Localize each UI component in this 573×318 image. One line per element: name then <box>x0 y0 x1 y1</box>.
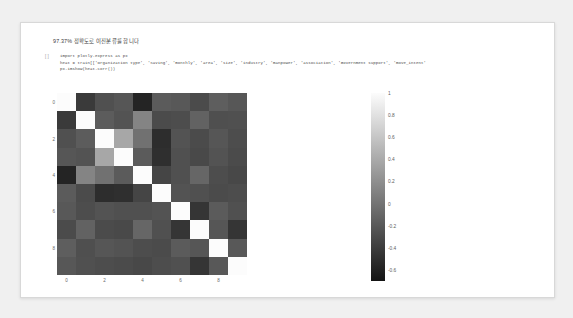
heatmap-cell[interactable] <box>133 220 152 238</box>
heatmap-cell[interactable] <box>171 93 190 111</box>
heatmap-cell[interactable] <box>95 202 114 220</box>
heatmap-cell[interactable] <box>57 129 76 147</box>
heatmap-cell[interactable] <box>209 129 228 147</box>
heatmap-cell[interactable] <box>76 129 95 147</box>
heatmap-cell[interactable] <box>152 129 171 147</box>
heatmap-cell[interactable] <box>152 239 171 257</box>
heatmap-cell[interactable] <box>95 111 114 129</box>
heatmap-cell[interactable] <box>171 202 190 220</box>
heatmap-cell[interactable] <box>76 239 95 257</box>
heatmap-cell[interactable] <box>76 166 95 184</box>
heatmap-cell[interactable] <box>57 239 76 257</box>
heatmap-cell[interactable] <box>76 184 95 202</box>
heatmap-cell[interactable] <box>171 111 190 129</box>
heatmap-cell[interactable] <box>228 148 247 166</box>
heatmap-cell[interactable] <box>57 148 76 166</box>
heatmap-cell[interactable] <box>95 184 114 202</box>
heatmap-cell[interactable] <box>57 220 76 238</box>
heatmap-cell[interactable] <box>152 202 171 220</box>
heatmap-cell[interactable] <box>114 257 133 275</box>
heatmap-cell[interactable] <box>228 257 247 275</box>
heatmap-cell[interactable] <box>76 111 95 129</box>
heatmap-cell[interactable] <box>190 166 209 184</box>
heatmap-cell[interactable] <box>57 93 76 111</box>
heatmap-cell[interactable] <box>76 148 95 166</box>
heatmap-cell[interactable] <box>152 148 171 166</box>
heatmap-cell[interactable] <box>133 111 152 129</box>
heatmap-cell[interactable] <box>114 111 133 129</box>
heatmap-cell[interactable] <box>228 202 247 220</box>
heatmap-cell[interactable] <box>209 239 228 257</box>
heatmap-cell[interactable] <box>95 129 114 147</box>
heatmap-cell[interactable] <box>133 239 152 257</box>
heatmap-cell[interactable] <box>133 257 152 275</box>
heatmap-cell[interactable] <box>133 129 152 147</box>
heatmap-cell[interactable] <box>209 93 228 111</box>
heatmap-cell[interactable] <box>152 111 171 129</box>
heatmap-cell[interactable] <box>114 148 133 166</box>
heatmap-cell[interactable] <box>95 148 114 166</box>
heatmap-cell[interactable] <box>228 239 247 257</box>
heatmap-cell[interactable] <box>114 184 133 202</box>
heatmap-cell[interactable] <box>228 220 247 238</box>
heatmap-cell[interactable] <box>190 257 209 275</box>
heatmap-cell[interactable] <box>190 111 209 129</box>
heatmap-cell[interactable] <box>228 111 247 129</box>
heatmap-cell[interactable] <box>114 129 133 147</box>
heatmap-cell[interactable] <box>190 148 209 166</box>
heatmap-cell[interactable] <box>209 202 228 220</box>
heatmap-cell[interactable] <box>114 202 133 220</box>
heatmap-cell[interactable] <box>133 184 152 202</box>
heatmap-cell[interactable] <box>152 184 171 202</box>
heatmap-cell[interactable] <box>171 239 190 257</box>
heatmap-cell[interactable] <box>171 184 190 202</box>
code-editor[interactable]: import plotly.express as px heat = train… <box>60 53 520 73</box>
heatmap-cell[interactable] <box>57 202 76 220</box>
heatmap-cell[interactable] <box>190 184 209 202</box>
heatmap-cell[interactable] <box>76 257 95 275</box>
heatmap-cell[interactable] <box>209 111 228 129</box>
heatmap-cell[interactable] <box>152 220 171 238</box>
heatmap-grid[interactable] <box>57 93 247 275</box>
heatmap-cell[interactable] <box>133 93 152 111</box>
heatmap-cell[interactable] <box>152 166 171 184</box>
heatmap-cell[interactable] <box>228 184 247 202</box>
heatmap-cell[interactable] <box>76 202 95 220</box>
heatmap-cell[interactable] <box>190 93 209 111</box>
heatmap-cell[interactable] <box>209 166 228 184</box>
heatmap-cell[interactable] <box>228 93 247 111</box>
heatmap-cell[interactable] <box>209 184 228 202</box>
heatmap-cell[interactable] <box>171 220 190 238</box>
heatmap-cell[interactable] <box>171 257 190 275</box>
heatmap-cell[interactable] <box>171 166 190 184</box>
heatmap-cell[interactable] <box>133 148 152 166</box>
heatmap-cell[interactable] <box>95 257 114 275</box>
heatmap-cell[interactable] <box>57 184 76 202</box>
heatmap-cell[interactable] <box>133 202 152 220</box>
heatmap-cell[interactable] <box>133 166 152 184</box>
heatmap-cell[interactable] <box>95 220 114 238</box>
heatmap-cell[interactable] <box>171 148 190 166</box>
heatmap-cell[interactable] <box>114 93 133 111</box>
heatmap-cell[interactable] <box>171 129 190 147</box>
heatmap-cell[interactable] <box>57 257 76 275</box>
heatmap-cell[interactable] <box>190 202 209 220</box>
heatmap-cell[interactable] <box>190 239 209 257</box>
heatmap-cell[interactable] <box>209 148 228 166</box>
heatmap-cell[interactable] <box>114 220 133 238</box>
heatmap-cell[interactable] <box>114 166 133 184</box>
heatmap-cell[interactable] <box>190 129 209 147</box>
heatmap-cell[interactable] <box>95 93 114 111</box>
heatmap-cell[interactable] <box>76 93 95 111</box>
heatmap-cell[interactable] <box>95 166 114 184</box>
heatmap-cell[interactable] <box>152 257 171 275</box>
heatmap-cell[interactable] <box>114 239 133 257</box>
heatmap-cell[interactable] <box>76 220 95 238</box>
heatmap-cell[interactable] <box>95 239 114 257</box>
heatmap-cell[interactable] <box>209 220 228 238</box>
heatmap-cell[interactable] <box>57 111 76 129</box>
heatmap-cell[interactable] <box>57 166 76 184</box>
heatmap-cell[interactable] <box>190 220 209 238</box>
heatmap-cell[interactable] <box>228 166 247 184</box>
heatmap-cell[interactable] <box>228 129 247 147</box>
